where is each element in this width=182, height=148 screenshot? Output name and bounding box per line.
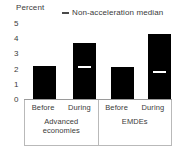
group-name-advanced-economies: Advanced economies xyxy=(25,117,98,135)
category-label-advanced-during: During xyxy=(61,103,97,112)
category-label-advanced-before: Before xyxy=(25,103,61,112)
median-marker-advanced-during xyxy=(78,66,91,68)
median-marker-emdes-during xyxy=(153,71,166,73)
bar-advanced-during xyxy=(73,43,96,99)
group-name-line-1: EMDEs xyxy=(99,117,172,126)
bar-emdes-during xyxy=(148,34,171,99)
category-group-emdes: Before During EMDEs xyxy=(98,100,172,145)
bar-advanced-before xyxy=(33,66,56,99)
group-name-line-2: economies xyxy=(25,126,98,135)
category-subrow: Before During xyxy=(99,100,172,112)
category-subrow: Before During xyxy=(25,100,98,112)
group-name-emdes: EMDEs xyxy=(99,117,172,126)
category-group-advanced-economies: Before During Advanced economies xyxy=(25,100,98,145)
group-name-line-1: Advanced xyxy=(25,117,98,126)
category-label-emdes-before: Before xyxy=(99,103,135,112)
bar-chart: Percent Non-acceleration median 0 1 2 3 … xyxy=(0,0,182,148)
category-label-box: Before During Advanced economies Before … xyxy=(24,100,172,146)
category-label-emdes-during: During xyxy=(135,103,171,112)
bar-emdes-before xyxy=(111,67,134,99)
